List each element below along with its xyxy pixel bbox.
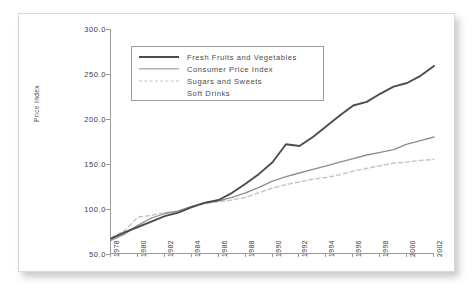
y-axis-tick-label: 200.0 <box>84 115 106 124</box>
x-axis-tick-label: 2002 <box>436 240 443 257</box>
figure-root: Price Index 300.0250.0200.0150.0100.050.… <box>0 0 473 292</box>
legend-item-soft-drinks: Soft Drinks <box>137 87 318 99</box>
x-axis-tick-label: 1992 <box>301 240 308 257</box>
y-axis-tick-label: 100.0 <box>84 205 106 214</box>
x-axis-tick-label: 1984 <box>194 240 201 257</box>
x-axis-tick-mark <box>298 253 299 257</box>
x-axis-tick-mark <box>379 253 380 257</box>
x-axis-tick-label: 2000 <box>409 240 416 257</box>
legend-item-fresh-fruits-and-vegetables: Fresh Fruits and Vegetables <box>137 51 318 63</box>
x-axis-tick-label: 1990 <box>275 240 282 257</box>
legend-swatch-icon <box>137 52 181 62</box>
legend-item-consumer-price-index: Consumer Price Index <box>137 63 318 75</box>
x-axis-tick-label: 1986 <box>221 240 228 257</box>
legend-item-label: Soft Drinks <box>187 89 230 98</box>
y-axis-tick-labels: 300.0250.0200.0150.0100.050.0 <box>57 29 106 254</box>
x-axis-tick-label: 1978 <box>113 240 120 257</box>
y-axis-tick-label: 150.0 <box>84 160 106 169</box>
x-axis-tick-mark <box>272 253 273 257</box>
x-axis-tick-mark <box>191 253 192 257</box>
series-line <box>111 160 434 238</box>
series-line <box>111 159 434 240</box>
chart-card: Price Index 300.0250.0200.0150.0100.050.… <box>18 13 455 272</box>
legend-swatch-icon <box>137 88 181 98</box>
x-axis-tick-mark <box>433 253 434 257</box>
legend: Fresh Fruits and Vegetables Consumer Pri… <box>131 46 324 101</box>
x-axis-tick-mark <box>352 253 353 257</box>
legend-item-label: Sugars and Sweets <box>187 77 262 86</box>
x-axis-tick-mark <box>164 253 165 257</box>
x-axis-tick-label: 1998 <box>382 240 389 257</box>
legend-item-sugars-and-sweets: Sugars and Sweets <box>137 75 318 87</box>
x-axis-tick-mark <box>325 253 326 257</box>
x-axis-tick-mark <box>406 253 407 257</box>
legend-item-label: Consumer Price Index <box>187 65 273 74</box>
y-axis-tick-label: 250.0 <box>84 70 106 79</box>
x-axis-tick-mark <box>218 253 219 257</box>
x-axis-tick-label: 1980 <box>140 240 147 257</box>
legend-swatch-icon <box>137 76 181 86</box>
x-axis-tick-label: 1994 <box>328 240 335 257</box>
x-axis-tick-label: 1982 <box>167 240 174 257</box>
y-axis-title: Price Index <box>33 85 40 122</box>
x-axis-tick-mark <box>110 253 111 257</box>
y-axis-tick-label: 300.0 <box>84 25 106 34</box>
legend-item-label: Fresh Fruits and Vegetables <box>187 53 297 62</box>
x-axis-tick-label: 1988 <box>248 240 255 257</box>
x-axis-tick-mark <box>245 253 246 257</box>
x-axis-tick-mark <box>137 253 138 257</box>
y-axis-tick-label: 50.0 <box>89 250 106 259</box>
legend-swatch-icon <box>137 64 181 74</box>
x-axis-tick-label: 1996 <box>355 240 362 257</box>
x-axis-tick-labels: 1978198019821984198619881990199219941996… <box>110 257 433 289</box>
